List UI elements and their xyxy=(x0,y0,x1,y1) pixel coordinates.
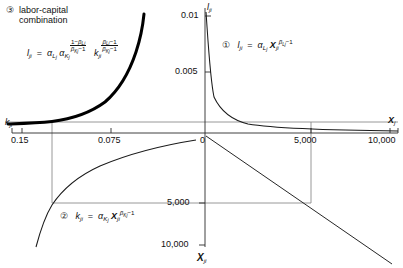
forty-five-degree-line xyxy=(206,136,392,264)
axis-label-l-ji: lji xyxy=(207,2,212,12)
tick-x-j-0: 0 xyxy=(200,136,205,145)
marker-1: ① xyxy=(222,40,230,50)
tick-x-ji-5000: 5,000 xyxy=(167,198,190,207)
tick-l-ji-0-005: 0.005 xyxy=(175,67,198,76)
header-block: ③ labor-capital combination xyxy=(6,5,116,25)
tick-k-ji-0-15: 0.15 xyxy=(11,136,29,145)
curve-relation-1 xyxy=(206,12,398,131)
axis-label-x-j: Xj xyxy=(388,115,395,125)
curve-relation-2 xyxy=(36,140,196,247)
tick-x-j-5000: 5,000 xyxy=(294,136,317,145)
figure-canvas: ③ labor-capital combination lji = αLj αK… xyxy=(0,0,403,268)
axis-label-k-ji-symbol: k xyxy=(5,117,10,127)
formula-relation-3: lji = αLj αKj1−βLjβKj−1 kjiβLj−1βKj−1 xyxy=(27,43,118,58)
axis-label-x-ji: Xji xyxy=(197,252,206,263)
axis-label-x-ji-symbol: X xyxy=(197,252,204,263)
tick-x-j-10000: 10,000 xyxy=(368,136,396,145)
tick-x-ji-10000: 10,000 xyxy=(161,240,189,249)
axis-label-k-ji-subscript: ji xyxy=(10,121,13,128)
header-line-1: labor-capital xyxy=(6,5,116,15)
curve-relation-3-thick xyxy=(8,14,144,124)
tick-l-ji-0-01: 0.01 xyxy=(181,11,199,20)
header-line-2: combination xyxy=(6,15,116,25)
four-quadrant-diagram-svg xyxy=(0,0,403,268)
axis-label-l-ji-subscript: ji xyxy=(209,6,212,13)
axis-label-k-ji: kji xyxy=(5,117,12,127)
formula-relation-2: ② kji = αKj XjiβKj−1 xyxy=(60,211,135,221)
tick-k-ji-0-075: 0.075 xyxy=(98,136,121,145)
marker-2: ② xyxy=(60,211,68,221)
marker-3: ③ xyxy=(6,5,14,15)
formula-relation-1: ① lji = αLj XjiβLj−1 xyxy=(222,40,293,50)
